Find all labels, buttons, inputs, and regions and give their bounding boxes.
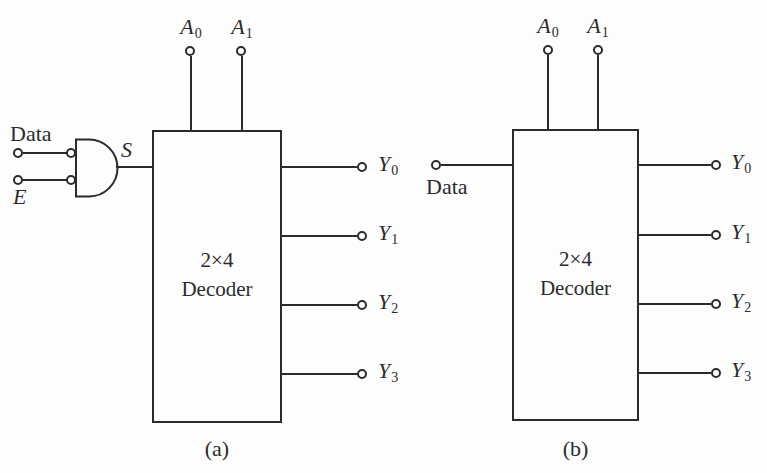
data-wire-b [441, 164, 512, 166]
y1-label-b: Y1 [731, 221, 751, 246]
decoder-name-label-a: Decoder [154, 275, 280, 304]
decoder-box-label-b: 2×4 Decoder [514, 245, 637, 304]
s-wire-a [116, 166, 152, 168]
y1-wire-a [280, 235, 357, 237]
a0-wire-b [547, 55, 549, 129]
decoder-box-label-a: 2×4 Decoder [154, 246, 280, 305]
y1-label-a: Y1 [378, 222, 398, 247]
data-terminal-b [431, 160, 441, 170]
y1-wire-b [637, 234, 711, 236]
y2-terminal-b [711, 299, 721, 309]
enable-wire-a [23, 179, 69, 181]
y0-label-a: Y0 [378, 153, 398, 178]
decoder-size-label-b: 2×4 [514, 245, 637, 274]
a1-terminal-a [236, 46, 246, 56]
decoder-size-label-a: 2×4 [154, 246, 280, 275]
enable-label-a: E [13, 186, 26, 208]
a1-wire-a [241, 56, 243, 130]
y1-terminal-a [357, 231, 367, 241]
gate-input-node-enable [66, 175, 76, 185]
gate-input-node-data [66, 148, 76, 158]
a0-terminal-b [543, 45, 553, 55]
y3-terminal-b [711, 368, 721, 378]
y0-wire-a [280, 166, 357, 168]
y0-label-b: Y0 [731, 151, 751, 176]
y0-terminal-a [357, 162, 367, 172]
a0-wire-a [190, 56, 192, 130]
data-wire-a [23, 152, 69, 154]
a1-label-b: A1 [568, 15, 628, 40]
a1-wire-b [597, 55, 599, 129]
y2-label-b: Y2 [731, 290, 751, 315]
decoder-box-a: 2×4 Decoder [152, 130, 282, 423]
a1-label-a: A1 [212, 16, 272, 41]
y2-wire-a [280, 304, 357, 306]
caption-b: (b) [512, 438, 639, 460]
data-label-a: Data [10, 123, 52, 145]
caption-a: (a) [152, 438, 282, 460]
y2-terminal-a [357, 300, 367, 310]
a1-terminal-b [593, 45, 603, 55]
y3-label-b: Y3 [731, 359, 751, 384]
figure-canvas: 2×4 Decoder A0 A1 Data E S Y0 Y1 Y2 Y3 (… [0, 0, 767, 473]
decoder-box-b: 2×4 Decoder [512, 129, 639, 421]
y3-wire-a [280, 373, 357, 375]
enable-terminal-a [13, 175, 23, 185]
s-label-a: S [121, 139, 132, 161]
y3-terminal-a [357, 369, 367, 379]
data-terminal-a [13, 148, 23, 158]
and-gate-icon [75, 138, 119, 199]
y3-wire-b [637, 372, 711, 374]
decoder-name-label-b: Decoder [514, 274, 637, 303]
y2-label-a: Y2 [378, 291, 398, 316]
a0-terminal-a [185, 46, 195, 56]
y0-terminal-b [711, 160, 721, 170]
y1-terminal-b [711, 230, 721, 240]
y2-wire-b [637, 303, 711, 305]
y0-wire-b [637, 164, 711, 166]
data-label-b: Data [426, 176, 468, 198]
y3-label-a: Y3 [378, 360, 398, 385]
